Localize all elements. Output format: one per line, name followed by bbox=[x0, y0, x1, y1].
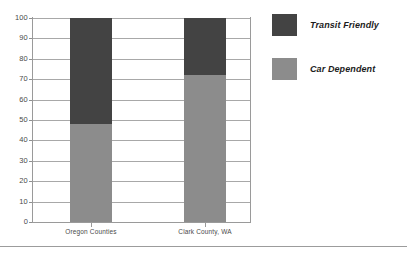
bar-stack[interactable] bbox=[70, 18, 112, 222]
plot-area bbox=[33, 18, 250, 222]
x-axis-line bbox=[32, 222, 251, 223]
y-axis-tick-label: 50 bbox=[2, 116, 28, 124]
chart-legend: Transit Friendly Car Dependent bbox=[272, 14, 402, 102]
legend-swatch-icon bbox=[272, 14, 297, 36]
bar-stack[interactable] bbox=[184, 18, 226, 222]
y-axis-tick-label: 10 bbox=[2, 198, 28, 206]
bar-segment[interactable] bbox=[70, 124, 112, 222]
y-axis-tick-label: 30 bbox=[2, 157, 28, 165]
y-axis-tick-label: 40 bbox=[2, 136, 28, 144]
legend-swatch-icon bbox=[272, 58, 297, 80]
bottom-divider bbox=[0, 246, 407, 247]
y-axis-tick-label: 90 bbox=[2, 34, 28, 42]
y-axis-tick-label: 60 bbox=[2, 96, 28, 104]
plot-right-border bbox=[250, 17, 251, 223]
y-axis-tick-label: 20 bbox=[2, 177, 28, 185]
y-axis-tick-label: 0 bbox=[2, 218, 28, 226]
bar-segment[interactable] bbox=[70, 18, 112, 124]
legend-label: Transit Friendly bbox=[310, 20, 379, 30]
bar-segment[interactable] bbox=[184, 18, 226, 75]
y-axis-tick-label: 80 bbox=[2, 55, 28, 63]
legend-item-car-dependent[interactable]: Car Dependent bbox=[272, 58, 402, 80]
y-axis-tick-label: 70 bbox=[2, 75, 28, 83]
x-axis-tick-label: Oregon Counties bbox=[31, 227, 151, 236]
legend-item-transit-friendly[interactable]: Transit Friendly bbox=[272, 14, 402, 36]
x-axis-tick-label: Clark County, WA bbox=[145, 227, 265, 236]
bar-segment[interactable] bbox=[184, 75, 226, 222]
stacked-bar-chart: 1009080706050403020100 Oregon CountiesCl… bbox=[0, 0, 407, 256]
legend-label: Car Dependent bbox=[310, 64, 375, 74]
y-axis-tick-label: 100 bbox=[2, 14, 28, 22]
